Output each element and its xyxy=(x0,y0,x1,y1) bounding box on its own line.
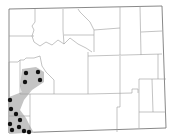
occurrence-dot xyxy=(24,71,28,75)
occurrence-dot xyxy=(18,118,22,122)
occurrence-dot xyxy=(23,80,27,84)
occurrence-dot xyxy=(27,130,31,134)
occurrence-dot xyxy=(8,122,12,126)
wyoming-county-map xyxy=(0,0,170,138)
occurrence-dot xyxy=(9,107,13,111)
occurrence-dot xyxy=(14,112,18,116)
occurrence-dot xyxy=(38,78,42,82)
occurrence-dot xyxy=(10,128,14,132)
occurrence-dot xyxy=(22,129,26,133)
occurrence-dot xyxy=(17,125,21,129)
occurrence-dot xyxy=(8,98,12,102)
occurrence-dot xyxy=(36,70,40,74)
